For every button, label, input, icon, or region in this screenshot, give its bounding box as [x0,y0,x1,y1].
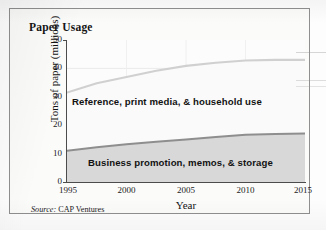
x-axis-line [66,182,306,183]
band-label-reference: Reference, print media, & household use [72,96,262,107]
figure-frame: Paper Usage [9,8,310,214]
x-tick-label-1995: 1995 [59,185,77,195]
y-tick-mark-50 [63,40,66,41]
x-tick-label-2010: 2010 [237,185,255,195]
y-axis-title: Tons of paper (millions) [48,0,60,144]
band-label-business: Business promotion, memos, & storage [88,157,273,168]
y-tick-label-10: 10 [44,148,62,158]
scan-artifact-line-3 [296,86,326,87]
source-text: CAP Ventures [58,205,104,214]
scan-artifact-line-2 [296,80,326,81]
figure-root: Paper Usage [0,0,326,230]
x-tick-label-2000: 2000 [118,185,136,195]
x-tick-label-2005: 2005 [177,185,195,195]
y-axis-line [66,40,67,183]
source-prefix: Source: [31,205,56,214]
x-tick-label-2015: 2015 [294,185,312,195]
page-title: Paper Usage [29,21,93,33]
source-note: Source: CAP Ventures [31,205,104,214]
scan-artifact-line-1 [296,52,326,53]
y-tick-mark-0 [63,182,66,183]
